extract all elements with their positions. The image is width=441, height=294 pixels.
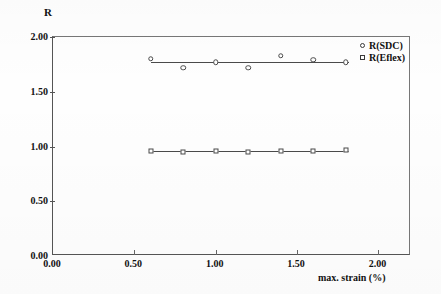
legend-label: R(SDC) [369, 40, 403, 51]
data-point [278, 148, 283, 153]
x-axis-title: max. strain (%) [318, 272, 386, 283]
y-tick-mark [50, 92, 55, 93]
series-trend-line [151, 62, 350, 63]
data-point [213, 59, 219, 65]
x-tick-label: 1.00 [206, 258, 224, 269]
y-axis-tick-labels: 0.000.501.001.502.00 [0, 0, 48, 294]
data-point [148, 148, 153, 153]
plot-area [52, 36, 410, 255]
x-tick-label: 2.00 [369, 258, 387, 269]
x-tick-mark [297, 250, 298, 255]
y-tick-label: 1.50 [31, 85, 49, 96]
square-marker-icon [360, 55, 365, 60]
data-point [311, 57, 317, 63]
chart-legend: R(SDC)R(Eflex) [360, 39, 405, 63]
y-tick-label: 0.50 [31, 195, 49, 206]
y-tick-mark [50, 37, 55, 38]
x-tick-label: 0.50 [125, 258, 143, 269]
x-tick-mark [216, 250, 217, 255]
y-tick-mark [50, 201, 55, 202]
x-tick-label: 1.50 [287, 258, 305, 269]
data-point [343, 59, 349, 65]
y-tick-mark [50, 147, 55, 148]
data-point [343, 147, 348, 152]
circle-marker-icon [360, 43, 365, 48]
data-point [180, 65, 186, 71]
y-tick-label: 1.00 [31, 140, 49, 151]
x-tick-mark [378, 250, 379, 255]
data-point [246, 65, 252, 71]
x-tick-mark [134, 250, 135, 255]
legend-item: R(Eflex) [360, 51, 405, 63]
chart-figure: R 0.000.501.001.502.00 0.000.501.001.502… [0, 0, 441, 294]
x-tick-label: 0.00 [43, 258, 61, 269]
data-point [181, 149, 186, 154]
data-point [278, 53, 284, 59]
legend-item: R(SDC) [360, 39, 405, 51]
y-tick-label: 2.00 [31, 31, 49, 42]
legend-label: R(Eflex) [369, 52, 405, 63]
data-point [148, 56, 154, 62]
data-point [311, 148, 316, 153]
data-point [213, 148, 218, 153]
data-point [246, 149, 251, 154]
